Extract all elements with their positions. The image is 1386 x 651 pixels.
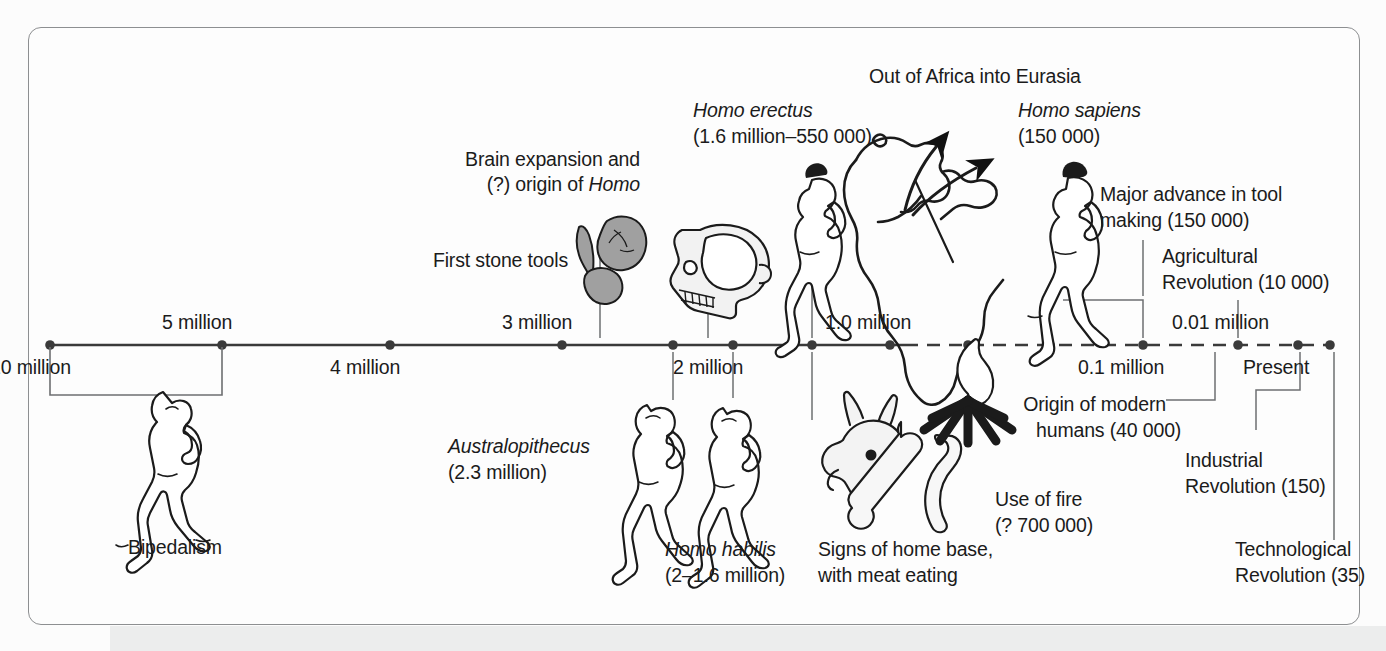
tick-label-5-million: 5 million: [162, 310, 282, 334]
tick-label-0-01-million: 0.01 million: [1172, 310, 1307, 334]
label-origin-modern-line2: humans (40 000): [1036, 418, 1181, 443]
tick-label-2-million: 2 million: [673, 355, 793, 379]
label-technological-line1: Technological: [1235, 537, 1351, 562]
label-homo-habilis-name: Homo habilis: [665, 537, 776, 562]
brain-expansion-italic-homo: Homo: [589, 173, 640, 195]
label-brain-expansion-line1: Brain expansion and: [380, 147, 640, 172]
label-australopithecus-name: Australopithecus: [448, 434, 590, 459]
label-homo-sapiens-date: (150 000): [1018, 124, 1100, 149]
label-origin-modern-line1: Origin of modern: [866, 392, 1166, 417]
label-industrial-line2: Revolution (150): [1185, 474, 1326, 499]
tick-label-present: Present: [1243, 355, 1353, 379]
tick-label-1-million: 1.0 million: [825, 310, 955, 334]
label-major-advance-line2: making (150 000): [1100, 208, 1249, 233]
label-bipedalism: Bipedalism: [90, 535, 260, 560]
label-home-base-line2: with meat eating: [818, 563, 958, 588]
label-use-of-fire-line2: (? 700 000): [995, 513, 1093, 538]
label-technological-line2: Revolution (35): [1235, 563, 1365, 588]
label-use-of-fire-line1: Use of fire: [995, 487, 1082, 512]
label-out-of-africa: Out of Africa into Eurasia: [869, 64, 1081, 89]
tick-label-10-million: 10 million: [0, 355, 110, 379]
tick-label-3-million: 3 million: [502, 310, 622, 334]
label-australopithecus-date: (2.3 million): [448, 460, 547, 485]
label-industrial-line1: Industrial: [1185, 448, 1263, 473]
label-homo-erectus-date: (1.6 million–550 000): [693, 124, 872, 149]
label-home-base-line1: Signs of home base,: [818, 537, 993, 562]
label-homo-erectus-name: Homo erectus: [693, 98, 813, 123]
label-major-advance-line1: Major advance in tool: [1100, 182, 1282, 207]
tick-label-0-1-million: 0.1 million: [1078, 355, 1208, 379]
label-homo-habilis-date: (2–1.6 million): [665, 563, 785, 588]
label-agricultural-line1: Agricultural: [1162, 244, 1258, 269]
label-homo-sapiens-name: Homo sapiens: [1018, 98, 1141, 123]
label-first-stone-tools: First stone tools: [200, 248, 568, 273]
figure-root: 10 million 5 million 4 million 3 million…: [0, 0, 1386, 651]
label-agricultural-line2: Revolution (10 000): [1162, 270, 1329, 295]
bottom-gray-band: [110, 626, 1386, 651]
label-brain-expansion-line2: (?) origin of Homo: [380, 172, 640, 197]
tick-label-4-million: 4 million: [330, 355, 450, 379]
brain-expansion-prefix: (?) origin of: [487, 173, 589, 195]
